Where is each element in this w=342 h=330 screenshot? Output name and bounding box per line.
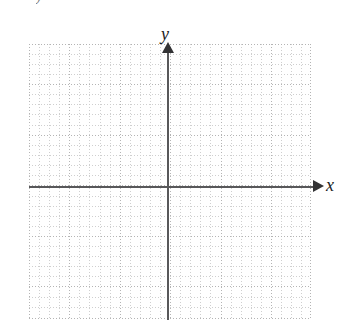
coordinate-plane-figure: y [0, 0, 342, 330]
gridline-vertical-minor [210, 44, 211, 319]
gridline-vertical-major [69, 44, 70, 319]
gridline-horizontal-minor [29, 226, 311, 227]
gridline-vertical-major [120, 44, 121, 319]
gridline-horizontal-minor [29, 297, 311, 298]
gridline-vertical-minor [251, 44, 252, 319]
gridline-horizontal-minor [29, 125, 311, 126]
gridline-vertical-minor [200, 44, 201, 319]
gridline-vertical-minor [180, 44, 181, 319]
gridline-vertical-minor [140, 44, 141, 319]
x-axis-line [29, 186, 317, 188]
gridline-vertical-major [271, 44, 272, 319]
gridline-vertical-minor [79, 44, 80, 319]
grid-plane [29, 44, 311, 319]
gridline-vertical-minor [231, 44, 232, 319]
gridline-horizontal-minor [29, 196, 311, 197]
gridline-horizontal-minor [29, 94, 311, 95]
gridline-vertical-major [310, 44, 311, 319]
clipped-glyph-artifact: y [36, 0, 50, 5]
x-axis-label: x [326, 176, 334, 194]
gridline-vertical-minor [110, 44, 111, 319]
gridline-horizontal-minor [29, 276, 311, 277]
gridline-horizontal-major [29, 318, 311, 319]
y-axis-line [167, 51, 169, 320]
gridline-vertical-minor [130, 44, 131, 319]
gridline-horizontal-minor [29, 114, 311, 115]
gridline-horizontal-major [29, 135, 311, 136]
gridline-horizontal-minor [29, 145, 311, 146]
gridline-horizontal-minor [29, 155, 311, 156]
gridline-horizontal-minor [29, 256, 311, 257]
gridline-vertical-minor [150, 44, 151, 319]
gridline-vertical-minor [301, 44, 302, 319]
gridline-horizontal-minor [29, 54, 311, 55]
gridline-horizontal-major [29, 236, 311, 237]
gridline-vertical-minor [261, 44, 262, 319]
gridline-horizontal-minor [29, 266, 311, 267]
gridline-vertical-minor [291, 44, 292, 319]
gridline-horizontal-minor [29, 165, 311, 166]
gridline-horizontal-minor [29, 216, 311, 217]
gridline-vertical-minor [281, 44, 282, 319]
x-axis-arrow-icon [313, 180, 324, 192]
gridline-vertical-major [29, 44, 30, 319]
gridline-horizontal-minor [29, 74, 311, 75]
gridline-horizontal-minor [29, 175, 311, 176]
gridline-vertical-minor [160, 44, 161, 319]
gridline-vertical-minor [59, 44, 60, 319]
gridline-vertical-major [221, 44, 222, 319]
gridline-vertical-minor [89, 44, 90, 319]
gridline-horizontal-major [29, 286, 311, 287]
gridline-horizontal-minor [29, 246, 311, 247]
y-axis-label: y [161, 25, 169, 43]
gridline-horizontal-minor [29, 206, 311, 207]
gridline-vertical-minor [39, 44, 40, 319]
gridline-vertical-minor [190, 44, 191, 319]
gridline-horizontal-minor [29, 104, 311, 105]
gridline-horizontal-major [29, 84, 311, 85]
gridline-vertical-minor [241, 44, 242, 319]
gridline-vertical-major [170, 44, 171, 319]
gridline-horizontal-minor [29, 307, 311, 308]
gridline-vertical-minor [100, 44, 101, 319]
gridline-horizontal-minor [29, 64, 311, 65]
gridline-vertical-minor [49, 44, 50, 319]
